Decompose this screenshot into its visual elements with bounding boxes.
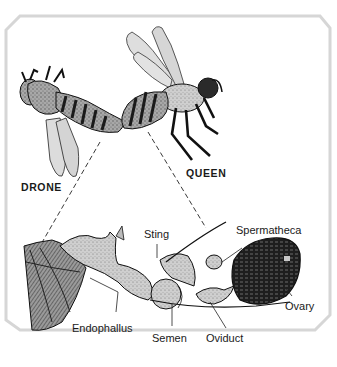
oviduct-label: Oviduct <box>206 333 243 344</box>
spermatheca-label: Spermatheca <box>236 225 301 236</box>
queen-head <box>198 78 218 98</box>
endophallus-label: Endophallus <box>72 323 133 334</box>
spermatheca <box>206 255 222 269</box>
diagram-canvas: DRONE QUEEN Sting Spermatheca Ovary Endo… <box>0 0 337 367</box>
queen-label: QUEEN <box>186 168 226 179</box>
semen-label: Semen <box>152 333 187 344</box>
sting-label: Sting <box>144 229 169 240</box>
drone-label: DRONE <box>21 182 62 193</box>
ovary-label: Ovary <box>285 301 314 312</box>
